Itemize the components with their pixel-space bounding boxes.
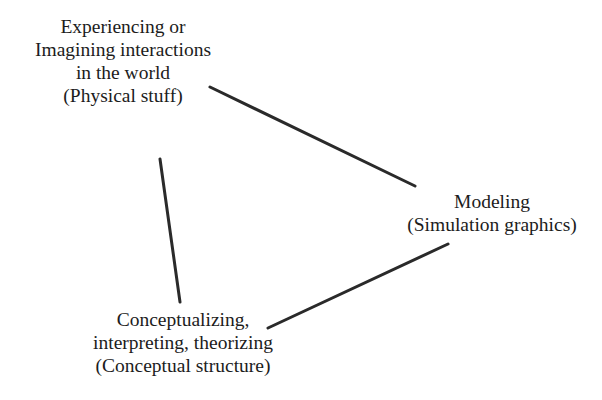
node-conceptual-line-2: interpreting, theorizing [58, 331, 308, 354]
node-physical-line-1: Experiencing or [28, 15, 218, 38]
node-physical-line-4: (Physical stuff) [28, 84, 218, 107]
node-conceptual-structure: Conceptualizing, interpreting, theorizin… [58, 308, 308, 377]
node-conceptual-line-1: Conceptualizing, [58, 308, 308, 331]
edge-physical-modeling [210, 87, 415, 186]
node-conceptual-line-3: (Conceptual structure) [58, 354, 308, 377]
node-modeling-line-2: (Simulation graphics) [383, 213, 601, 236]
edge-physical-conceptual [160, 159, 180, 302]
node-modeling: Modeling (Simulation graphics) [383, 190, 601, 236]
node-modeling-line-1: Modeling [383, 190, 601, 213]
node-physical-stuff: Experiencing or Imagining interactions i… [28, 15, 218, 107]
node-physical-line-2: Imagining interactions [28, 38, 218, 61]
node-physical-line-3: in the world [28, 61, 218, 84]
